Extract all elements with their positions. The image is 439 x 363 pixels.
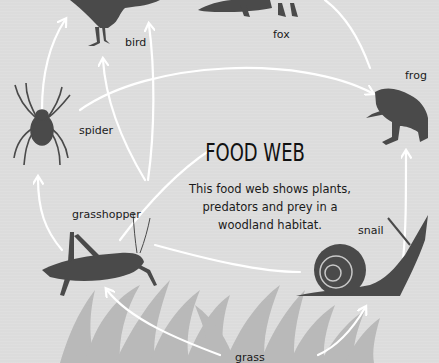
arrow-spider-to-bird (42, 20, 65, 110)
label-bird: bird (125, 37, 146, 48)
fox-silhouette (198, 0, 298, 17)
label-snail: snail (358, 225, 384, 236)
arrow-snail-to-bird (148, 25, 153, 180)
bird-silhouette (70, 0, 160, 46)
diagram-description: This food web shows plants, predators an… (180, 180, 360, 234)
arrow-snail-to-frog (403, 152, 406, 260)
arrow-spider-to-frog (80, 68, 372, 110)
arrow-frog-to-fox (325, 0, 370, 68)
label-grasshopper: grasshopper (72, 209, 141, 220)
arrow-grasshopper-to-spider (38, 178, 62, 250)
frog-silhouette (366, 88, 428, 145)
diagram-title: FOOD WEB (205, 140, 305, 165)
arrow-grasshopper-to-bird (103, 60, 145, 180)
grasshopper-silhouette (42, 213, 157, 296)
arrow-grasshopper-long (155, 245, 300, 272)
label-fox: fox (273, 29, 290, 40)
label-frog: frog (405, 70, 427, 81)
label-spider: spider (79, 125, 113, 136)
label-grass: grass (235, 352, 265, 363)
